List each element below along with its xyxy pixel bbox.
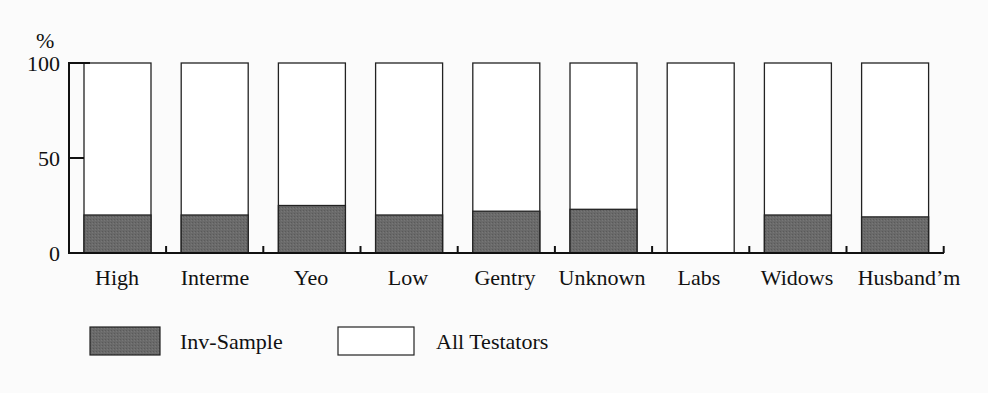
legend-label-all-testators: All Testators [436,329,548,354]
x-label-yeo: Yeo [294,265,328,290]
chart: % 100 50 0 High Interme Yeo Low Gentry U… [0,0,988,393]
bar-inv-sample [764,215,831,253]
bar-all-testators [667,63,734,253]
bar-inv-sample [376,215,443,253]
x-label-widows: Widows [761,265,833,290]
bar-inv-sample [84,215,151,253]
y-unit-label: % [36,28,54,53]
bar-inv-sample [181,215,248,253]
x-label-gentry: Gentry [474,265,535,290]
x-label-interme: Interme [181,265,249,290]
bar-inv-sample [570,209,637,253]
legend-swatch-all-testators [338,327,414,355]
bar-inv-sample [278,206,345,254]
y-tick-label-100: 100 [27,51,60,76]
legend-swatch-inv-sample [90,327,160,355]
bar-inv-sample [473,211,540,253]
x-label-labs: Labs [678,265,721,290]
x-label-unknown: Unknown [559,265,646,290]
bar-inv-sample [862,217,929,253]
y-tick-label-50: 50 [38,146,60,171]
y-tick-label-0: 0 [49,241,60,266]
x-label-high: High [95,265,139,290]
legend-label-inv-sample: Inv-Sample [180,329,283,354]
x-label-husbandm: Husband’m [858,265,961,290]
x-label-low: Low [388,265,428,290]
